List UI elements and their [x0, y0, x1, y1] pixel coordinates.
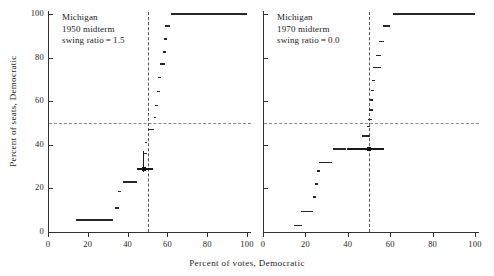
data-segment-right-13	[372, 80, 375, 81]
figure-root: 020406080100020406080100 Michigan 1950 m…	[0, 0, 494, 276]
data-segment-left-7	[148, 129, 155, 130]
y-tick-label-0: 0	[14, 226, 44, 236]
data-segment-right-12	[371, 90, 374, 91]
x-tick-label-left-0: 0	[33, 239, 63, 249]
y-tick-left-40	[49, 145, 53, 146]
panel-michigan-1970: 020406080100 Michigan 1970 midterm swing…	[252, 0, 494, 276]
annotation-left-line3: swing ratio = 1.5	[62, 35, 125, 47]
data-segment-left-14	[164, 38, 167, 39]
y-tick-left-20	[49, 188, 53, 189]
data-segment-right-17	[383, 25, 390, 26]
x-tick-left-0	[48, 233, 49, 237]
x-axis-line-right	[263, 232, 479, 233]
observed-point-left	[142, 167, 146, 171]
data-segment-left-2	[118, 191, 121, 192]
x-tick-label-right-0: 0	[248, 239, 278, 249]
x-tick-label-left-80: 80	[192, 239, 222, 249]
data-segment-left-0	[76, 219, 113, 220]
x-tick-label-left-60: 60	[152, 239, 182, 249]
y-tick-label-40: 40	[14, 139, 44, 149]
x-tick-left-40	[128, 233, 129, 237]
data-segment-right-11	[370, 99, 373, 100]
data-segment-right-1	[301, 211, 313, 212]
data-segment-right-18	[393, 13, 475, 14]
panel-michigan-1950: 020406080100020406080100 Michigan 1950 m…	[0, 0, 252, 276]
data-segment-right-6	[333, 148, 346, 149]
data-segment-right-0	[294, 225, 302, 226]
y-tick-right-20	[264, 188, 268, 189]
data-segment-right-5	[319, 162, 332, 163]
y-tick-label-100: 100	[14, 8, 44, 18]
x-tick-right-40	[348, 233, 349, 237]
x-tick-label-right-20: 20	[290, 239, 320, 249]
annotation-left-line2: 1950 midterm	[62, 24, 125, 36]
data-segment-right-15	[376, 55, 380, 56]
y-tick-right-100	[264, 14, 268, 15]
data-segment-left-12	[160, 63, 165, 64]
data-segment-right-10	[369, 109, 373, 110]
x-tick-left-100	[247, 233, 248, 237]
x-tick-right-80	[433, 233, 434, 237]
annotation-left-line1: Michigan	[62, 12, 125, 24]
x-tick-left-80	[207, 233, 208, 237]
y-axis-title: Percent of seats, Democratic	[8, 51, 18, 171]
reference-line-votes-50-right	[369, 12, 370, 232]
data-segment-left-9	[155, 105, 158, 106]
y-tick-right-80	[264, 58, 268, 59]
y-tick-right-40	[264, 145, 268, 146]
data-segment-left-15	[165, 25, 170, 26]
y-tick-right-60	[264, 101, 268, 102]
annotation-right-line1: Michigan	[277, 12, 340, 24]
y-tick-left-100	[49, 14, 53, 15]
x-tick-label-right-80: 80	[418, 239, 448, 249]
data-segment-left-1	[115, 207, 119, 208]
x-tick-label-left-40: 40	[113, 239, 143, 249]
data-segment-left-16	[171, 13, 247, 14]
data-segment-left-6	[145, 142, 148, 143]
observed-horizontal-bar-right	[347, 148, 384, 150]
data-segment-right-9	[368, 119, 372, 120]
data-segment-left-10	[157, 91, 160, 92]
x-tick-label-right-40: 40	[333, 239, 363, 249]
annotation-left: Michigan 1950 midterm swing ratio = 1.5	[62, 12, 125, 47]
data-segment-left-8	[154, 117, 156, 118]
x-tick-right-0	[263, 233, 264, 237]
y-axis-line-left	[48, 11, 49, 232]
y-tick-left-0	[49, 232, 53, 233]
x-tick-label-right-60: 60	[375, 239, 405, 249]
y-tick-left-80	[49, 58, 53, 59]
y-tick-right-0	[264, 232, 268, 233]
annotation-right-line2: 1970 midterm	[277, 24, 340, 36]
x-tick-right-20	[305, 233, 306, 237]
x-tick-left-20	[88, 233, 89, 237]
annotation-right: Michigan 1970 midterm swing ratio = 0.0	[277, 12, 340, 47]
data-segment-right-8	[367, 126, 370, 127]
x-tick-right-100	[475, 233, 476, 237]
y-tick-left-60	[49, 101, 53, 102]
data-segment-left-11	[158, 77, 161, 78]
data-segment-right-4	[317, 170, 320, 171]
y-tick-label-20: 20	[14, 182, 44, 192]
y-tick-label-80: 80	[14, 52, 44, 62]
x-tick-left-60	[167, 233, 168, 237]
x-tick-label-right-100: 100	[460, 239, 490, 249]
data-segment-right-3	[315, 183, 318, 184]
y-tick-label-60: 60	[14, 95, 44, 105]
x-axis-title: Percent of votes, Democratic	[0, 258, 494, 268]
data-segment-right-2	[313, 196, 316, 197]
reference-line-votes-50-left	[148, 12, 149, 232]
data-segment-right-7	[362, 135, 370, 136]
data-segment-right-16	[379, 41, 384, 42]
y-axis-line-right	[263, 11, 264, 232]
observed-point-right	[367, 147, 371, 151]
x-axis-line-left	[48, 232, 251, 233]
annotation-right-line3: swing ratio = 0.0	[277, 35, 340, 47]
x-tick-label-left-20: 20	[73, 239, 103, 249]
reference-line-seats-50-left	[49, 123, 251, 124]
reference-line-seats-50-right	[264, 123, 479, 124]
data-segment-left-13	[163, 51, 166, 52]
data-segment-right-14	[373, 67, 380, 68]
data-segment-left-3	[123, 181, 137, 182]
x-tick-right-60	[390, 233, 391, 237]
